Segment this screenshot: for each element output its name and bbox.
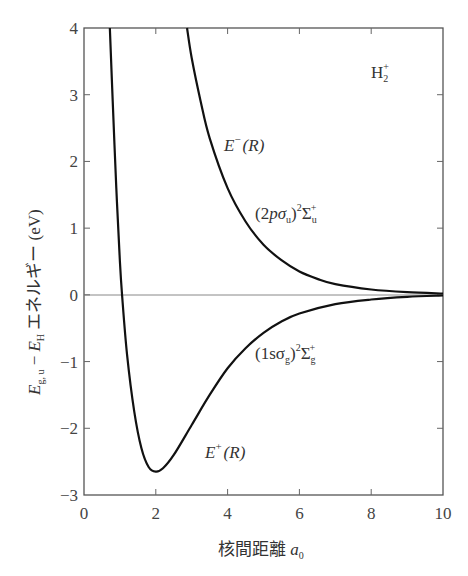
y-tick-label: 4 bbox=[70, 19, 79, 38]
y-tick-label: −3 bbox=[60, 486, 78, 505]
x-tick-label: 2 bbox=[152, 504, 161, 523]
x-tick-label: 6 bbox=[295, 504, 304, 523]
y-axis-label: Eg, u − EH エネルギー (eV) bbox=[25, 209, 46, 396]
y-tick-label: 2 bbox=[70, 152, 79, 171]
curve-e-minus bbox=[187, 28, 443, 294]
state-g-label: (1sσg)2Σg+ bbox=[255, 342, 316, 365]
x-axis-label: 核間距離 a0 bbox=[218, 540, 304, 561]
y-tick-label: 1 bbox=[70, 219, 79, 238]
e-plus-label: E+(R) bbox=[204, 440, 246, 462]
molecule-label: H2+ bbox=[371, 61, 389, 84]
y-tick-label: −1 bbox=[60, 353, 78, 372]
axis-tick-labels: 024681043210−1−2−3 bbox=[60, 19, 452, 523]
axis-ticks bbox=[84, 28, 443, 495]
y-tick-label: 0 bbox=[70, 286, 79, 305]
y-tick-label: 3 bbox=[70, 86, 79, 105]
x-tick-label: 4 bbox=[223, 504, 232, 523]
x-tick-label: 8 bbox=[367, 504, 376, 523]
x-tick-label: 0 bbox=[80, 504, 89, 523]
x-tick-label: 10 bbox=[435, 504, 452, 523]
plot-frame bbox=[84, 28, 443, 495]
state-u-label: (2pσu)2Σu+ bbox=[255, 202, 317, 225]
chart-canvas: 024681043210−1−2−3 H2+ E−(R) (2pσu)2Σu+ … bbox=[0, 0, 468, 576]
y-tick-label: −2 bbox=[60, 419, 78, 438]
e-minus-label: E−(R) bbox=[223, 133, 265, 155]
curve-e-plus bbox=[110, 28, 443, 472]
